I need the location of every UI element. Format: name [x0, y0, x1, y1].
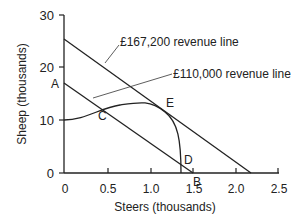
- x-axis-title: Steers (thousands): [114, 200, 215, 214]
- x-tick-2.5: 2.5: [271, 182, 288, 196]
- x-tick-0.5: 0.5: [100, 182, 117, 196]
- chart: 30 20 10 0 0 0.5 1.0 1.5 2.0 2.5 Steers …: [0, 0, 305, 222]
- x-tick-1.0: 1.0: [143, 182, 160, 196]
- label-167200: £167,200 revenue line: [120, 35, 239, 49]
- y-axis-title: Sheep (thousands): [15, 43, 29, 144]
- point-B: B: [193, 175, 201, 189]
- y-tick-30: 30: [40, 8, 54, 23]
- chart-svg: 30 20 10 0 0 0.5 1.0 1.5 2.0 2.5 Steers …: [0, 0, 305, 222]
- revenue-line-167200: [64, 39, 251, 173]
- y-tick-0: 0: [47, 166, 54, 181]
- point-C: C: [98, 109, 107, 123]
- point-D: D: [184, 153, 193, 167]
- point-A: A: [51, 77, 59, 91]
- y-tick-10: 10: [40, 113, 54, 128]
- point-E: E: [166, 96, 174, 110]
- production-possibility-curve: [64, 103, 181, 173]
- label-110000: £110,000 revenue line: [173, 67, 291, 81]
- leader-line-low: [93, 74, 172, 98]
- y-tick-20: 20: [40, 60, 54, 75]
- x-tick-2.0: 2.0: [228, 182, 245, 196]
- leader-line-high: [105, 45, 119, 63]
- x-tick-0: 0: [62, 182, 69, 196]
- y-ticks: [59, 15, 64, 173]
